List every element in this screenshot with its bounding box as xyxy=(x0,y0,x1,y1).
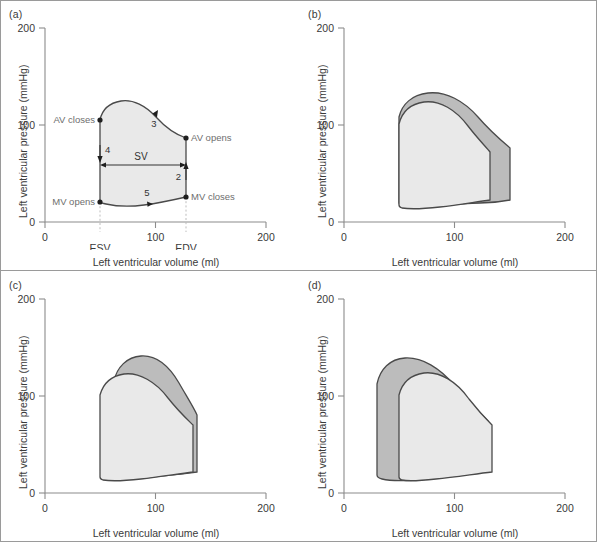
panel-a-ylabel-200: 200 xyxy=(17,22,35,34)
panel-a-xlabel-100: 100 xyxy=(147,231,165,243)
panel-c-ylabel-100: 100 xyxy=(17,390,35,402)
panel-d-ylabel-200: 200 xyxy=(316,293,334,305)
panel-d-baseline-loop xyxy=(399,373,492,481)
panel-a-phase2-label: 2 xyxy=(176,171,181,182)
panel-a-xlabel-0: 0 xyxy=(42,231,48,243)
panel-d-ylabel-100: 100 xyxy=(316,390,334,402)
panel-b: (b) Left ventricular pressure (mmHg) Lef… xyxy=(300,0,597,271)
panel-a-label-mv-opens: MV opens xyxy=(52,196,95,207)
panel-a-sv-label: SV xyxy=(134,151,148,162)
panel-d-xlabel-200: 200 xyxy=(556,502,574,514)
panel-d-xlabel-100: 100 xyxy=(446,502,464,514)
panel-c-x-axis-label: Left ventricular volume (ml) xyxy=(45,527,267,539)
panel-d-plot: 200 100 0 0 100 200 xyxy=(300,271,597,521)
panel-c-xlabel-0: 0 xyxy=(42,502,48,514)
panel-d-ylabel-0: 0 xyxy=(328,487,334,499)
panel-b-ylabel-200: 200 xyxy=(316,22,334,34)
panel-a: (a) Left ventricular pressure (mmHg) Lef… xyxy=(1,0,299,271)
panel-a-label-av-closes: AV closes xyxy=(53,114,95,125)
panel-b-ylabel-0: 0 xyxy=(328,216,334,228)
panel-a-phase3-label: 3 xyxy=(151,118,156,129)
panel-c-xlabel-100: 100 xyxy=(147,502,165,514)
panel-a-xlabel-200: 200 xyxy=(257,231,275,243)
panel-c: (c) Left ventricular pressure (mmHg) Lef… xyxy=(1,271,299,542)
panel-d: (d) Left ventricular pressure (mmHg) Lef… xyxy=(300,271,597,542)
panel-a-x-axis-label: Left ventricular volume (ml) xyxy=(45,256,267,268)
panel-a-point-av-opens xyxy=(183,135,188,140)
panel-a-point-av-closes xyxy=(97,117,102,122)
panel-b-plot: 200 100 0 0 100 200 xyxy=(300,0,597,250)
panel-a-plot: 200 100 0 0 100 200 ESV EDV AV closes AV… xyxy=(1,0,299,250)
panel-c-plot: 200 100 0 0 100 200 xyxy=(1,271,299,521)
panel-d-x-axis-label: Left ventricular volume (ml) xyxy=(344,527,566,539)
panel-a-label-mv-closes: MV closes xyxy=(191,191,235,202)
panel-c-xlabel-200: 200 xyxy=(257,502,275,514)
panel-a-esv-label: ESV xyxy=(89,242,110,250)
panel-b-xlabel-200: 200 xyxy=(556,231,574,243)
figure-frame: (a) Left ventricular pressure (mmHg) Lef… xyxy=(0,0,597,542)
panel-a-edv-label: EDV xyxy=(175,242,197,250)
panel-a-label-av-opens: AV opens xyxy=(191,132,232,143)
panel-a-phase5-label: 5 xyxy=(144,187,149,198)
panel-c-ylabel-0: 0 xyxy=(29,487,35,499)
panel-a-ylabel-0: 0 xyxy=(29,216,35,228)
panel-b-xlabel-0: 0 xyxy=(341,231,347,243)
panel-a-phase4-label: 4 xyxy=(105,144,110,155)
panel-a-ylabel-100: 100 xyxy=(17,119,35,131)
panel-b-x-axis-label: Left ventricular volume (ml) xyxy=(344,256,566,268)
panel-d-xlabel-0: 0 xyxy=(341,502,347,514)
panel-c-ylabel-200: 200 xyxy=(17,293,35,305)
panel-b-ylabel-100: 100 xyxy=(316,119,334,131)
panel-b-xlabel-100: 100 xyxy=(446,231,464,243)
panel-a-point-mv-closes xyxy=(183,194,188,199)
panel-a-point-mv-opens xyxy=(97,199,102,204)
